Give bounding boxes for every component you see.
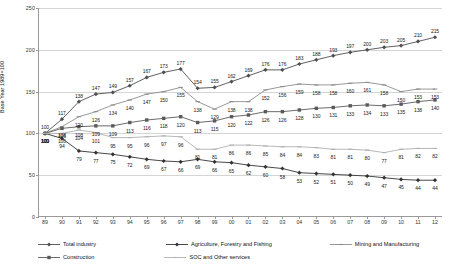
legend-swatch [166, 241, 188, 248]
data-value-label: 183 [295, 55, 303, 61]
data-value-label: 44 [415, 185, 420, 191]
legend-swatch [38, 241, 60, 248]
data-value-label: 152 [261, 95, 269, 101]
data-value-label: 86 [229, 150, 234, 156]
x-tick-label: 98 [195, 219, 201, 225]
legend-item-3[interactable]: Mining and Manufacturing [330, 241, 419, 248]
data-value-label: 118 [160, 123, 168, 129]
data-value-label: 85 [263, 151, 268, 157]
legend-row-1: Total industryAgriculture, Forestry and … [38, 238, 446, 251]
x-tick-label: 08 [364, 219, 370, 225]
legend-swatch [330, 241, 352, 248]
legend-item-5[interactable]: SOC and Other services [164, 254, 250, 261]
data-value-label: 82 [415, 153, 420, 159]
data-value-label: 155 [211, 78, 219, 84]
data-value-label: 69 [195, 164, 200, 170]
data-value-label: 120 [177, 122, 185, 128]
legend-label: Mining and Manufacturing [355, 242, 419, 248]
data-value-label: 122 [244, 120, 252, 126]
data-value-label: 167 [143, 68, 151, 74]
legend-label: Construction [63, 255, 94, 261]
data-value-label: 83 [314, 153, 319, 159]
y-axis-title: Base Year 1989=100 [0, 61, 5, 113]
legend-item-2[interactable]: Agriculture, Forestry and Fishing [166, 241, 272, 248]
data-value-label: 84 [297, 152, 302, 158]
data-value-label: 69 [144, 164, 149, 170]
data-value-label: 66 [178, 167, 183, 173]
legend-label: SOC and Other services [189, 255, 250, 261]
legend-swatch [164, 254, 186, 261]
data-value-label: 161 [363, 87, 371, 93]
x-tick-label: 11 [415, 219, 420, 225]
data-value-label: 120 [227, 122, 235, 128]
data-value-label: 153 [414, 94, 422, 100]
line-chart: Base Year 1989=100 050100150200250 10011… [0, 0, 453, 279]
data-value-label: 138 [244, 107, 252, 113]
x-tick-label: 12 [432, 219, 438, 225]
data-value-label: 200 [363, 41, 371, 47]
data-value-label: 65 [229, 168, 234, 174]
x-tick-label: 95 [144, 219, 150, 225]
legend-label: Total industry [63, 242, 96, 248]
data-value-label: 113 [126, 128, 134, 134]
data-value-label: 53 [297, 178, 302, 184]
data-value-label: 97 [161, 141, 166, 147]
data-value-label: 44 [432, 185, 437, 191]
x-tick-label: 07 [347, 219, 353, 225]
data-value-label: 158 [312, 90, 320, 96]
legend-item-1[interactable]: Total industry [38, 241, 96, 248]
data-value-label: 66 [212, 167, 217, 173]
x-tick-label: 91 [76, 219, 82, 225]
data-point-marker [47, 242, 51, 246]
data-value-label: 84 [280, 152, 285, 158]
data-value-label: 116 [143, 125, 151, 131]
data-value-label: 177 [177, 60, 185, 66]
y-tick-label: 150 [26, 89, 35, 95]
data-value-label: 135 [397, 109, 405, 115]
data-value-label: 50 [348, 180, 353, 186]
data-value-label: 140 [431, 105, 439, 111]
x-tick-label: 04 [296, 219, 302, 225]
x-tick-label: 06 [330, 219, 336, 225]
data-value-label: 126 [278, 117, 286, 123]
x-tick-label: 94 [127, 219, 133, 225]
data-value-label: 134 [109, 110, 117, 116]
data-value-label: 86 [246, 150, 251, 156]
legend-item-4[interactable]: Construction [38, 254, 94, 261]
data-value-label: 51 [331, 179, 336, 185]
legend-row-2: ConstructionSOC and Other services [38, 251, 446, 264]
data-point-marker [175, 242, 179, 246]
data-value-label: 133 [346, 111, 354, 117]
data-value-label: 150 [397, 97, 405, 103]
data-value-label: 81 [212, 154, 217, 160]
data-value-label: 104 [75, 135, 83, 141]
data-value-label: 72 [127, 162, 132, 168]
data-value-label: 188 [312, 51, 320, 57]
data-value-label: 156 [278, 92, 286, 98]
y-tick-label: 200 [26, 47, 35, 53]
data-value-label: 120 [75, 122, 83, 128]
y-tick-label: 50 [29, 172, 35, 178]
x-tick-label: 96 [161, 219, 167, 225]
data-value-label: 197 [346, 43, 354, 49]
data-value-label: 49 [364, 181, 369, 187]
data-value-label: 147 [143, 99, 151, 105]
data-value-label: 215 [431, 28, 439, 34]
data-value-label: 149 [109, 83, 117, 89]
data-value-label: 45 [398, 184, 403, 190]
data-value-label: 159 [295, 89, 303, 95]
data-value-label: 62 [246, 170, 251, 176]
data-value-label: 138 [75, 93, 83, 99]
data-value-label: 75 [110, 159, 115, 165]
x-tick-label: 89 [42, 219, 48, 225]
data-value-label: 115 [211, 126, 219, 132]
data-value-label: 81 [348, 154, 353, 160]
data-value-label: 130 [312, 113, 320, 119]
y-tick-mark [36, 217, 39, 218]
data-value-label: 138 [194, 107, 202, 113]
data-value-label: 140 [126, 105, 134, 111]
data-value-label: 126 [92, 117, 100, 123]
data-value-label: 95 [110, 143, 115, 149]
data-value-label: 126 [261, 117, 269, 123]
data-value-label: 80 [364, 155, 369, 161]
